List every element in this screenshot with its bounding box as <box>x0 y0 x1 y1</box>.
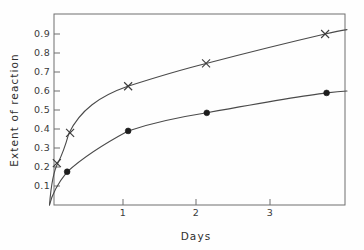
y-axis-tick-labels: 0.1 0.2 0.3 0.4 0.5 0.6 0.7 0.8 0.9 <box>34 28 50 191</box>
series-upper-curve <box>50 30 348 205</box>
data-point-marker <box>204 110 210 116</box>
y-axis-title: Extent of reaction <box>8 53 20 167</box>
x-axis-title: Days <box>181 230 212 242</box>
data-point-marker <box>64 169 70 175</box>
extent-of-reaction-plot: 0.1 0.2 0.3 0.4 0.5 0.6 0.7 0.8 0.9 1 2 … <box>0 0 364 250</box>
y-tick-label: 0.2 <box>34 161 50 172</box>
data-point-marker <box>324 90 330 96</box>
x-axis-ticks <box>123 199 270 205</box>
y-tick-label: 0.4 <box>34 123 50 134</box>
series-lower-curve <box>50 91 348 205</box>
x-tick-label: 1 <box>120 207 126 218</box>
y-tick-label: 0.7 <box>34 66 50 77</box>
data-point-marker <box>125 128 131 134</box>
y-tick-label: 0.1 <box>34 180 50 191</box>
y-tick-label: 0.6 <box>34 85 50 96</box>
x-axis-tick-labels: 1 2 3 <box>120 207 273 218</box>
y-tick-label: 0.3 <box>34 142 50 153</box>
x-tick-label: 3 <box>267 207 273 218</box>
y-tick-label: 0.9 <box>34 28 50 39</box>
y-tick-label: 0.5 <box>34 104 50 115</box>
x-tick-label: 2 <box>193 207 199 218</box>
series-lower-markers <box>64 90 329 175</box>
plot-frame <box>54 14 345 205</box>
y-tick-label: 0.8 <box>34 47 50 58</box>
chart-figure: 0.1 0.2 0.3 0.4 0.5 0.6 0.7 0.8 0.9 1 2 … <box>0 0 364 250</box>
